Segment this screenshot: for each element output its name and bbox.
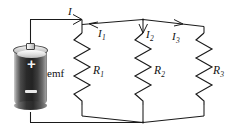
resistor-r2-zigzag bbox=[135, 33, 151, 105]
battery-emf-source: + bbox=[13, 43, 48, 112]
resistor-r2-symbol: R bbox=[154, 64, 161, 76]
emf-label: emf bbox=[47, 68, 64, 79]
resistor-r2-label: R2 bbox=[154, 65, 165, 77]
battery-negative-sign bbox=[25, 90, 37, 93]
resistor-r1-subscript: 1 bbox=[100, 70, 104, 79]
current-I1-subscript: 1 bbox=[102, 33, 106, 42]
battery-positive-sign: + bbox=[26, 58, 37, 69]
resistor-r2-subscript: 2 bbox=[161, 70, 165, 79]
junction-node-bottom-center bbox=[142, 122, 144, 124]
wire-top-bus-right bbox=[143, 20, 204, 27]
resistor-r3-zigzag bbox=[196, 33, 212, 105]
resistor-r1-label: R1 bbox=[93, 65, 104, 77]
battery-bottom-cap bbox=[14, 101, 47, 110]
current-I3-subscript: 3 bbox=[176, 36, 180, 45]
current-I2-subscript: 2 bbox=[150, 34, 154, 43]
wire-bottom-bus-left bbox=[82, 116, 143, 123]
resistor-r3-subscript: 3 bbox=[220, 70, 224, 79]
current-I-label: I bbox=[68, 6, 72, 17]
resistor-r1-symbol: R bbox=[93, 64, 100, 76]
resistor-r3-symbol: R bbox=[213, 64, 220, 76]
current-I-symbol: I bbox=[68, 5, 72, 17]
junction-node-top-center bbox=[142, 19, 144, 21]
resistor-r3-label: R3 bbox=[213, 65, 224, 77]
current-I2-label: I2 bbox=[146, 29, 153, 40]
resistor-r1-zigzag bbox=[74, 33, 90, 105]
current-I1-label: I1 bbox=[98, 28, 105, 39]
wire-bottom-bus-right bbox=[143, 116, 204, 123]
battery-positive-terminal-nub bbox=[26, 43, 35, 50]
current-I3-label: I3 bbox=[172, 31, 179, 42]
circuit-diagram-figure: + emf I I1 I2 I3 R1 R2 R3 bbox=[0, 0, 226, 137]
